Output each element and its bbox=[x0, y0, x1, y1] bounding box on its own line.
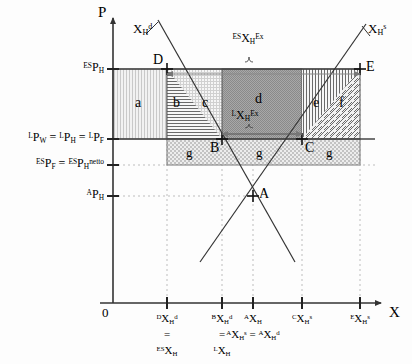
axis-label-p: P bbox=[98, 5, 106, 20]
point-label-A: A bbox=[259, 187, 269, 201]
region-label-e: e bbox=[313, 96, 319, 110]
x-tick-label-a-xh-line2: AXHs = AXHd bbox=[213, 329, 293, 342]
x-tick-label-e-xhs: EXHs bbox=[320, 313, 400, 326]
x-tick-label-b-xhd-line3: LXH bbox=[182, 345, 262, 358]
curve-label-demand: XHd bbox=[133, 22, 152, 37]
diagram-canvas: P X 0 ESPHLPW = LPH = LPFESPF = ESPHnett… bbox=[0, 0, 412, 364]
point-label-B: B bbox=[210, 141, 219, 155]
y-tick-label-es-pf: ESPF = ESPHnetto bbox=[0, 157, 104, 170]
y-tick-label-l-pw: LPW = LPH = LPF bbox=[0, 131, 104, 144]
point-label-C: C bbox=[305, 141, 314, 155]
axis-origin-label: 0 bbox=[102, 306, 109, 319]
curve-label-supply: XHs bbox=[368, 22, 386, 37]
diagram-svg bbox=[0, 0, 412, 364]
brace-label-es-export: ESXHEx bbox=[218, 32, 278, 45]
region-label-c: c bbox=[202, 96, 208, 110]
region-label-d: d bbox=[255, 92, 262, 106]
region-label-f: f bbox=[339, 96, 344, 110]
point-label-D: D bbox=[153, 53, 163, 67]
y-tick-label-es-ph: ESPH bbox=[0, 61, 104, 74]
point-label-E: E bbox=[366, 60, 375, 74]
region-label-b: b bbox=[173, 96, 180, 110]
region-label-g-2: g bbox=[326, 146, 333, 159]
region-label-g-1: g bbox=[256, 146, 263, 159]
region-label-a: a bbox=[135, 96, 141, 110]
brace-label-l-export: LXHEx bbox=[215, 109, 275, 122]
y-tick-label-a-ph: APH bbox=[0, 188, 104, 201]
region-label-g-0: g bbox=[186, 146, 193, 159]
region-d bbox=[222, 69, 302, 139]
